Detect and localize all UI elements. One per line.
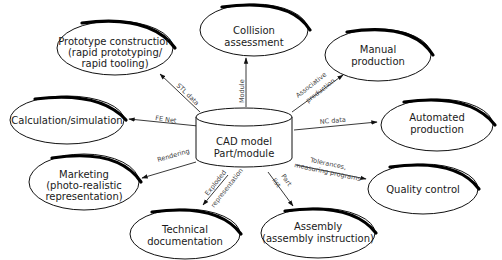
node-collision: Collision assessment [200,4,310,56]
svg-text:assessment: assessment [224,37,283,48]
edge-label-module: Module [238,79,246,103]
center-line-1: CAD model [216,136,272,147]
svg-text:representation): representation) [45,191,122,202]
edge-label-nc-data: NC data [319,116,346,126]
node-marketing: Marketing (photo-realistic representatio… [29,154,141,210]
node-quality: Quality control [368,164,479,214]
edge-label-fe-net: FE Net [155,114,178,125]
svg-text:Technical: Technical [161,224,208,235]
edge-label-stl-data: STL data [175,82,201,108]
node-automated: Automated production [381,99,495,151]
svg-text:Collision: Collision [233,25,275,36]
svg-text:Prototype construction: Prototype construction [58,36,172,47]
svg-text:production: production [410,124,464,135]
svg-text:documentation: documentation [147,236,223,247]
node-prototype: Prototype construction (rapid prototypin… [57,21,175,75]
node-technical: Technical documentation [130,209,241,259]
center-line-2: Part/module [214,148,275,159]
edge-label-rendering: Rendering [156,147,190,164]
cad-model-cylinder: CAD model Part/module [196,108,292,167]
svg-text:(photo-realistic: (photo-realistic [46,180,122,191]
node-calculation: Calculation/simulation [10,96,126,144]
node-manual: Manual production [325,29,433,81]
svg-text:Marketing: Marketing [59,169,109,180]
node-assembly: Assembly (assembly instruction) [261,208,376,258]
edge-stl-data [160,74,200,112]
svg-text:(rapid prototyping/: (rapid prototyping/ [68,47,163,58]
svg-text:production: production [351,56,405,67]
svg-text:Assembly: Assembly [294,221,342,232]
edge-rendering [142,162,196,178]
svg-text:Manual: Manual [360,44,396,55]
svg-text:Automated: Automated [409,112,465,123]
svg-text:Quality control: Quality control [386,184,460,195]
svg-text:rapid tooling): rapid tooling) [81,58,148,69]
cad-model-diagram: STL data Module Associative production F… [0,0,502,260]
svg-text:Calculation/simulation: Calculation/simulation [11,115,122,126]
edge-label-part: Part [279,173,293,188]
svg-text:(assembly instruction): (assembly instruction) [262,233,374,244]
